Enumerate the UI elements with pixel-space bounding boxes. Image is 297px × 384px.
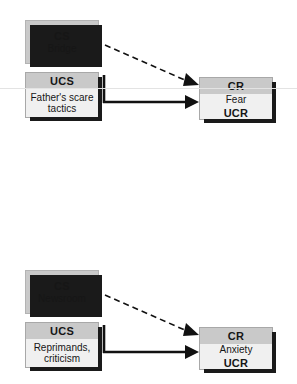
dashed-arrow-cs-to-cr-bottom	[105, 295, 199, 336]
diagram-canvas: CS Bridge UCS Father's scare tactics CR …	[0, 0, 297, 384]
cr-box-fear[interactable]: CR Fear UCR	[199, 77, 273, 120]
ucs-box-reprimands-body: Reprimands, criticism	[26, 339, 98, 367]
cs-box-newsroom-code: CS	[54, 279, 70, 293]
cr-box-fear-band: CR	[200, 78, 272, 94]
cr-box-fear-label: Fear	[222, 94, 251, 106]
cs-box-bridge-content: CS Bridge	[26, 21, 98, 63]
cr-box-anxiety[interactable]: CR Anxiety UCR	[199, 327, 273, 370]
ucs-box-father-band: UCS	[26, 73, 98, 89]
cs-box-newsroom-content: CS Newsroom	[26, 271, 98, 313]
solid-arrow-ucs-to-cr-top	[103, 75, 199, 109]
ucs-box-father-body: Father's scare tactics	[26, 89, 98, 117]
cs-box-bridge-code: CS	[54, 29, 70, 43]
ucs-box-reprimands-label: Reprimands, criticism	[26, 342, 98, 365]
cr-box-fear-body: Fear UCR	[200, 94, 272, 119]
cr-box-fear-code2: UCR	[224, 106, 249, 120]
cr-box-anxiety-label: Anxiety	[216, 344, 257, 356]
cs-box-newsroom-label: Newsroom	[34, 293, 90, 305]
page-hairline	[0, 88, 297, 89]
ucs-box-father-code: UCS	[50, 74, 74, 88]
cr-box-anxiety-body: Anxiety UCR	[200, 344, 272, 369]
cr-box-anxiety-code2: UCR	[224, 356, 249, 370]
ucs-box-reprimands[interactable]: UCS Reprimands, criticism	[25, 322, 99, 368]
ucs-box-father[interactable]: UCS Father's scare tactics	[25, 72, 99, 118]
solid-arrow-ucs-to-cr-bottom	[103, 325, 199, 359]
cr-box-anxiety-band: CR	[200, 328, 272, 344]
cr-box-fear-code: CR	[228, 79, 245, 93]
cr-box-anxiety-code: CR	[228, 329, 245, 343]
ucs-box-reprimands-code: UCS	[50, 324, 74, 338]
cs-box-bridge-label: Bridge	[44, 43, 81, 55]
ucs-box-father-label: Father's scare tactics	[26, 92, 98, 115]
dashed-arrow-cs-to-cr-top	[105, 45, 199, 86]
cs-box-newsroom[interactable]: CS Newsroom	[25, 270, 99, 314]
ucs-box-reprimands-band: UCS	[26, 323, 98, 339]
cs-box-bridge[interactable]: CS Bridge	[25, 20, 99, 64]
